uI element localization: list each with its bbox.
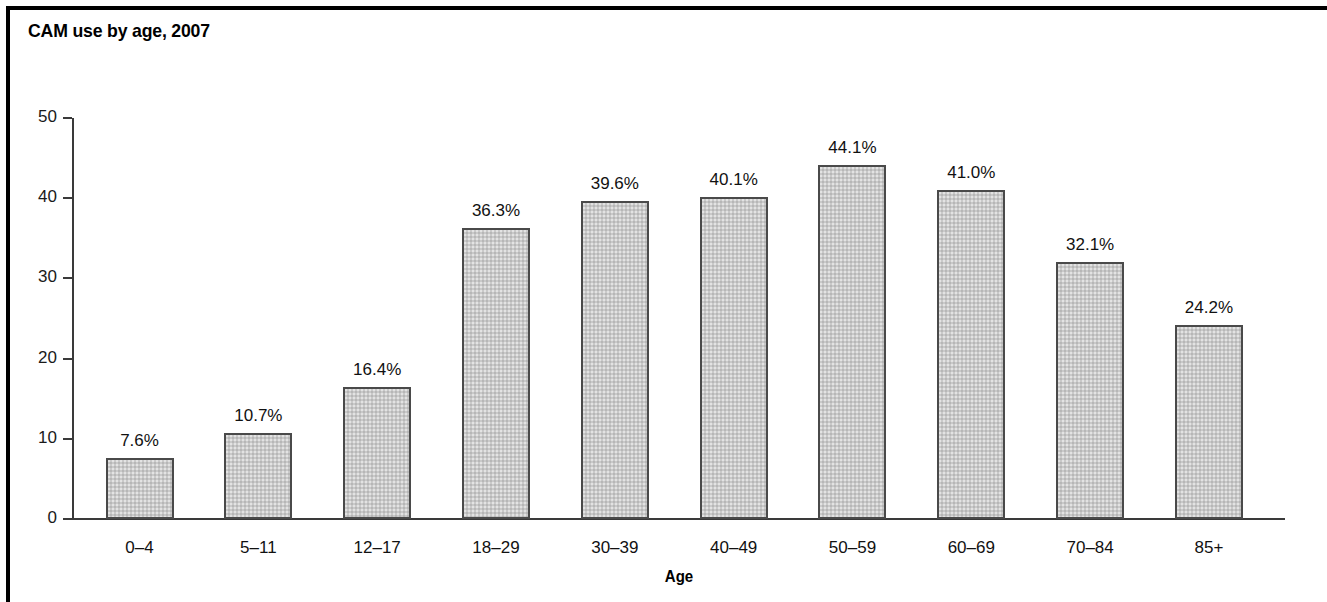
y-axis-tick (63, 358, 72, 360)
x-axis-category-label: 12–17 (317, 538, 437, 558)
bar (224, 433, 292, 519)
y-axis-tick (63, 518, 72, 520)
y-axis-tick (63, 438, 72, 440)
y-axis-tick (63, 277, 72, 279)
y-axis-tick-label: 10 (0, 428, 57, 448)
x-axis-category-label: 0–4 (80, 538, 200, 558)
bar (937, 190, 1005, 519)
x-axis-category-label: 85+ (1149, 538, 1269, 558)
y-axis-tick-label: 0 (0, 508, 57, 528)
bar-value-label: 44.1% (792, 138, 912, 158)
figure-panel: CAM use by age, 2007 010203040507.6%0–41… (0, 0, 1327, 602)
bar (581, 201, 649, 519)
y-axis-tick (63, 117, 72, 119)
y-axis-tick-label: 40 (0, 187, 57, 207)
x-axis-category-label: 40–49 (674, 538, 794, 558)
y-axis-tick-label: 30 (0, 267, 57, 287)
bar-value-label: 24.2% (1149, 298, 1269, 318)
bar-value-label: 40.1% (674, 170, 794, 190)
bar-value-label: 32.1% (1030, 235, 1150, 255)
bar (106, 458, 174, 519)
bar (700, 197, 768, 519)
bar (818, 165, 886, 519)
bar (462, 228, 530, 519)
bar-value-label: 10.7% (198, 406, 318, 426)
x-axis-category-label: 70–84 (1030, 538, 1150, 558)
x-axis-title: Age (585, 568, 773, 586)
bar-value-label: 7.6% (80, 431, 200, 451)
bar-value-label: 36.3% (436, 201, 556, 221)
bar-chart-plot: 010203040507.6%0–410.7%5–1116.4%12–1736.… (0, 0, 1327, 602)
bar (1056, 262, 1124, 519)
y-axis-tick-label: 50 (0, 107, 57, 127)
y-axis-line (72, 118, 74, 520)
x-axis-category-label: 50–59 (792, 538, 912, 558)
x-axis-category-label: 5–11 (198, 538, 318, 558)
y-axis-tick-label: 20 (0, 348, 57, 368)
bar (1175, 325, 1243, 519)
bar (343, 387, 411, 519)
bar-value-label: 39.6% (555, 174, 675, 194)
x-axis-category-label: 30–39 (555, 538, 675, 558)
bar-value-label: 16.4% (317, 360, 437, 380)
y-axis-tick (63, 197, 72, 199)
x-axis-category-label: 60–69 (911, 538, 1031, 558)
bar-value-label: 41.0% (911, 163, 1031, 183)
x-axis-category-label: 18–29 (436, 538, 556, 558)
